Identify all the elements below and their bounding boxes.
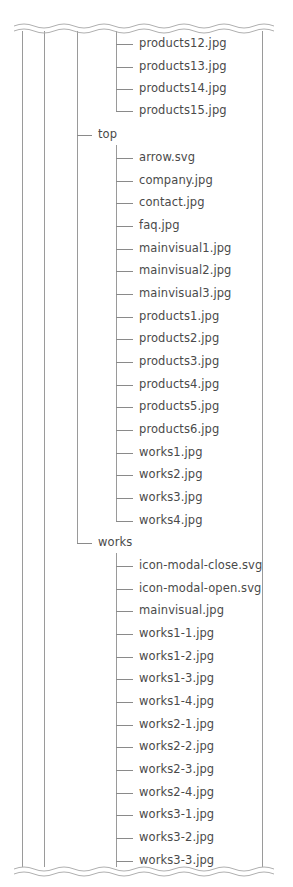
file-branch-connector (116, 498, 133, 499)
frame-right-line (262, 30, 263, 868)
tree-guide-line-level3 (77, 30, 78, 544)
file-label: products3.jpg (139, 354, 219, 368)
tree-guide-line-works-group (116, 553, 117, 868)
tree-guide-line-products-group (116, 30, 117, 112)
file-label: works2-4.jpg (139, 785, 214, 799)
file-label: contact.jpg (139, 195, 205, 209)
file-branch-connector (116, 226, 133, 227)
file-branch-connector (116, 453, 133, 454)
file-branch-connector (116, 679, 133, 680)
file-branch-connector (116, 521, 133, 522)
file-label: products1.jpg (139, 309, 219, 323)
file-branch-connector (116, 385, 133, 386)
file-label: products4.jpg (139, 377, 219, 391)
file-branch-connector (116, 89, 133, 90)
file-branch-connector (116, 838, 133, 839)
file-label: arrow.svg (139, 150, 195, 164)
file-branch-connector (116, 611, 133, 612)
file-branch-connector (116, 67, 133, 68)
file-label: mainvisual3.jpg (139, 286, 232, 300)
folder-branch-connector (77, 543, 92, 544)
file-branch-connector (116, 44, 133, 45)
file-branch-connector (116, 725, 133, 726)
file-label: products2.jpg (139, 331, 219, 345)
file-label: works4.jpg (139, 513, 203, 527)
file-label: company.jpg (139, 173, 213, 187)
file-branch-connector (116, 158, 133, 159)
file-label: icon-modal-open.svg (139, 581, 262, 595)
file-label: works2-1.jpg (139, 717, 214, 731)
bottom-break-wave-icon (0, 860, 293, 887)
file-branch-connector (116, 702, 133, 703)
file-branch-connector (116, 339, 133, 340)
file-branch-connector (116, 362, 133, 363)
top-break-wave-icon (0, 22, 293, 38)
file-label: works3-1.jpg (139, 807, 214, 821)
file-branch-connector (116, 111, 133, 112)
file-branch-connector (116, 294, 133, 295)
file-label: works1-4.jpg (139, 694, 214, 708)
file-branch-connector (116, 770, 133, 771)
file-label: mainvisual2.jpg (139, 263, 232, 277)
file-branch-connector (116, 747, 133, 748)
directory-tree-diagram: products12.jpgproducts13.jpgproducts14.j… (0, 0, 293, 887)
file-label: works3-2.jpg (139, 830, 214, 844)
file-label: works1-3.jpg (139, 671, 214, 685)
tree-guide-line-level1 (22, 30, 23, 868)
file-label: works2-2.jpg (139, 739, 214, 753)
file-label: works1.jpg (139, 445, 203, 459)
file-label: products14.jpg (139, 81, 227, 95)
tree-guide-line-top-group (116, 145, 117, 522)
file-branch-connector (116, 475, 133, 476)
file-label: products12.jpg (139, 36, 227, 50)
file-branch-connector (116, 793, 133, 794)
file-branch-connector (116, 249, 133, 250)
file-branch-connector (116, 589, 133, 590)
folder-branch-connector (77, 135, 92, 136)
file-branch-connector (116, 657, 133, 658)
file-branch-connector (116, 407, 133, 408)
file-branch-connector (116, 566, 133, 567)
file-branch-connector (116, 203, 133, 204)
tree-guide-line-level2 (44, 30, 45, 868)
file-branch-connector (116, 634, 133, 635)
file-label: products13.jpg (139, 59, 227, 73)
file-label: mainvisual.jpg (139, 603, 224, 617)
file-label: works1-1.jpg (139, 626, 214, 640)
file-branch-connector (116, 317, 133, 318)
file-label: works1-2.jpg (139, 649, 214, 663)
file-branch-connector (116, 815, 133, 816)
file-label: works2.jpg (139, 467, 203, 481)
file-branch-connector (116, 271, 133, 272)
file-label: faq.jpg (139, 218, 180, 232)
folder-label: works (98, 535, 132, 549)
file-branch-connector (116, 181, 133, 182)
file-label: products15.jpg (139, 103, 227, 117)
file-label: icon-modal-close.svg (139, 558, 262, 572)
file-label: products6.jpg (139, 422, 219, 436)
file-label: mainvisual1.jpg (139, 241, 232, 255)
file-label: works3.jpg (139, 490, 203, 504)
file-branch-connector (116, 430, 133, 431)
file-label: products5.jpg (139, 399, 219, 413)
folder-label: top (98, 127, 117, 141)
file-label: works2-3.jpg (139, 762, 214, 776)
